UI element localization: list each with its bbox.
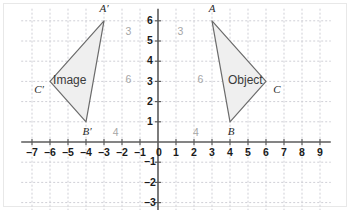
x-tick-label: –3 — [98, 146, 110, 158]
coordinate-plane-svg: 364364–7–6–5–4–3–2–10123456789654321–1–2… — [0, 0, 350, 210]
x-tick-label: 3 — [209, 146, 215, 158]
x-tick-label: 7 — [281, 146, 287, 158]
y-tick-label: 1 — [147, 115, 153, 127]
shape-label-object: Object — [228, 73, 263, 87]
y-tick-label: 5 — [147, 34, 153, 46]
dimension-label-4: 4 — [113, 126, 119, 138]
vertex-label-b-prime: B′ — [82, 125, 92, 137]
x-tick-label: –6 — [44, 146, 56, 158]
x-tick-label: –4 — [80, 146, 92, 158]
dimension-label-3: 3 — [178, 25, 184, 37]
x-tick-label: –7 — [26, 146, 38, 158]
coordinate-plane-figure: 364364–7–6–5–4–3–2–10123456789654321–1–2… — [0, 0, 350, 210]
x-tick-label: –2 — [116, 146, 128, 158]
y-tick-label: –1 — [144, 155, 156, 167]
y-tick-label: 6 — [147, 14, 153, 26]
dimension-label-6: 6 — [125, 73, 131, 85]
vertex-label-a-prime: A′ — [98, 2, 109, 14]
vertex-label-a: A — [208, 2, 216, 14]
x-tick-label: 8 — [299, 146, 305, 158]
x-tick-label: 5 — [245, 146, 251, 158]
y-tick-label: 3 — [147, 75, 153, 87]
dimension-label-6: 6 — [197, 73, 203, 85]
x-tick-label: 0 — [156, 146, 162, 158]
x-tick-label: 2 — [191, 146, 197, 158]
dimension-label-4: 4 — [193, 126, 199, 138]
vertex-label-c: C — [273, 83, 281, 95]
y-tick-label: –3 — [144, 196, 156, 208]
x-tick-label: 6 — [263, 146, 269, 158]
y-tick-label: –2 — [144, 176, 156, 188]
shape-label-image: Image — [53, 73, 87, 87]
dimension-label-3: 3 — [125, 25, 131, 37]
vertex-label-c-prime: C′ — [34, 83, 44, 95]
vertex-label-b: B — [228, 125, 235, 137]
figure-background — [0, 0, 350, 210]
y-tick-label: 4 — [147, 54, 153, 66]
x-tick-label: 9 — [317, 146, 323, 158]
x-tick-label: 4 — [227, 146, 233, 158]
y-tick-label: 2 — [147, 95, 153, 107]
x-tick-label: 1 — [173, 146, 179, 158]
x-tick-label: –5 — [62, 146, 74, 158]
